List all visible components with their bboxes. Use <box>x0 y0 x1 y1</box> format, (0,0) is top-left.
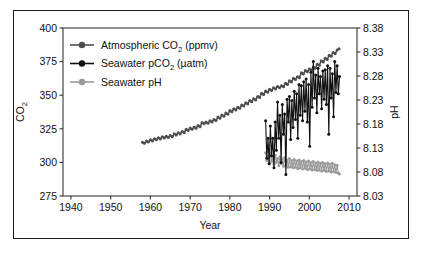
series-marker <box>234 108 237 111</box>
series-marker <box>282 85 285 88</box>
series-marker <box>314 67 317 70</box>
x-tick-label: 1990 <box>258 201 282 213</box>
series-marker <box>267 137 270 140</box>
series-marker <box>289 138 292 141</box>
series-marker <box>295 92 298 95</box>
y-left-tick-label: 375 <box>39 55 57 67</box>
series-marker <box>336 64 339 67</box>
series-marker <box>226 113 229 116</box>
series-marker <box>254 98 257 101</box>
series-marker <box>330 96 333 99</box>
series-marker <box>313 96 316 99</box>
series-marker <box>264 119 267 122</box>
y-left-tick-label: 325 <box>39 123 57 135</box>
y-right-tick-label: 8.33 <box>363 46 384 58</box>
series-marker <box>275 161 278 164</box>
series-marker <box>262 93 265 96</box>
series-marker <box>286 98 289 101</box>
series-marker <box>326 64 329 67</box>
legend-label-tail: (µatm) <box>174 57 207 69</box>
series-marker <box>324 68 327 71</box>
series-marker <box>288 95 291 98</box>
series-marker <box>147 141 150 144</box>
series-marker <box>143 142 146 145</box>
series-marker <box>171 135 174 138</box>
legend-item-2[interactable]: Seawater pH <box>70 76 162 88</box>
series-marker <box>338 75 341 78</box>
series-marker <box>330 55 333 58</box>
series-marker <box>207 122 210 125</box>
series-marker <box>274 87 277 90</box>
series-marker <box>322 61 325 64</box>
series-marker <box>276 157 279 160</box>
y-left-axis-title: CO2 <box>14 102 29 122</box>
legend-label-main: Seawater pCO <box>101 57 170 69</box>
series-marker <box>306 70 309 73</box>
series-marker <box>278 114 281 117</box>
series-marker <box>242 105 245 108</box>
series-marker <box>309 71 312 74</box>
legend-label-main: Atmospheric CO <box>101 39 178 51</box>
series-marker <box>280 161 283 164</box>
series-marker <box>306 121 309 124</box>
legend-item-0[interactable]: Atmospheric CO2 (ppmv) <box>70 39 218 54</box>
series-marker <box>292 126 295 129</box>
x-tick-label: 2010 <box>337 201 361 213</box>
series-marker <box>318 64 321 67</box>
y-right-tick-label: 8.08 <box>363 166 384 178</box>
series-marker <box>210 120 213 123</box>
series-marker <box>296 137 299 140</box>
series-marker <box>276 100 279 103</box>
series-marker <box>319 75 322 78</box>
series-marker <box>270 89 273 92</box>
figure-root: 1940195019601970198019902000201027530032… <box>0 0 423 259</box>
y-left-tick-label: 400 <box>39 22 57 34</box>
legend-marker <box>79 42 85 48</box>
series-marker <box>315 111 318 114</box>
series-marker <box>283 113 286 116</box>
series-marker <box>268 162 271 165</box>
y-right-tick-label: 8.38 <box>363 22 384 34</box>
y-right-tick-label: 8.18 <box>363 118 384 130</box>
series-marker <box>250 100 253 103</box>
series-marker <box>307 83 310 86</box>
series-marker <box>214 119 217 122</box>
series-marker <box>312 60 315 63</box>
x-tick-label: 1940 <box>59 201 83 213</box>
legend-label-tail: (ppmv) <box>182 39 218 51</box>
series-marker <box>337 92 340 95</box>
series-marker <box>230 110 233 113</box>
series-marker <box>179 132 182 135</box>
series-marker <box>290 80 293 83</box>
series-2 <box>264 151 341 175</box>
series-marker <box>301 119 304 122</box>
y-left-axis-title-main: CO <box>14 106 26 122</box>
series-marker <box>325 103 328 106</box>
legend-marker <box>79 60 85 66</box>
legend-label: Seawater pH <box>101 76 162 88</box>
legend: Atmospheric CO2 (ppmv)Seawater pCO2 (µat… <box>70 39 218 88</box>
x-tick-label: 1950 <box>99 201 123 213</box>
series-marker <box>288 157 291 160</box>
series-marker <box>218 117 221 120</box>
series-marker <box>314 74 317 77</box>
series-marker <box>287 121 290 124</box>
series-marker <box>298 76 301 79</box>
series-marker <box>272 166 275 169</box>
series-marker <box>269 125 272 128</box>
legend-item-1[interactable]: Seawater pCO2 (µatm) <box>70 57 208 72</box>
y-right-tick-label: 8.23 <box>363 94 384 106</box>
series-marker <box>336 164 339 167</box>
series-marker <box>246 102 249 105</box>
series-marker <box>266 91 269 94</box>
series-marker <box>195 127 198 130</box>
series-marker <box>175 133 178 136</box>
x-tick-label: 1960 <box>139 201 163 213</box>
series-marker <box>299 114 302 117</box>
series-marker <box>331 72 334 75</box>
y-left-tick-label: 275 <box>39 190 57 202</box>
series-marker <box>328 67 331 70</box>
series-marker <box>238 107 241 110</box>
y-right-tick-label: 8.13 <box>363 142 384 154</box>
series-marker <box>311 106 314 109</box>
